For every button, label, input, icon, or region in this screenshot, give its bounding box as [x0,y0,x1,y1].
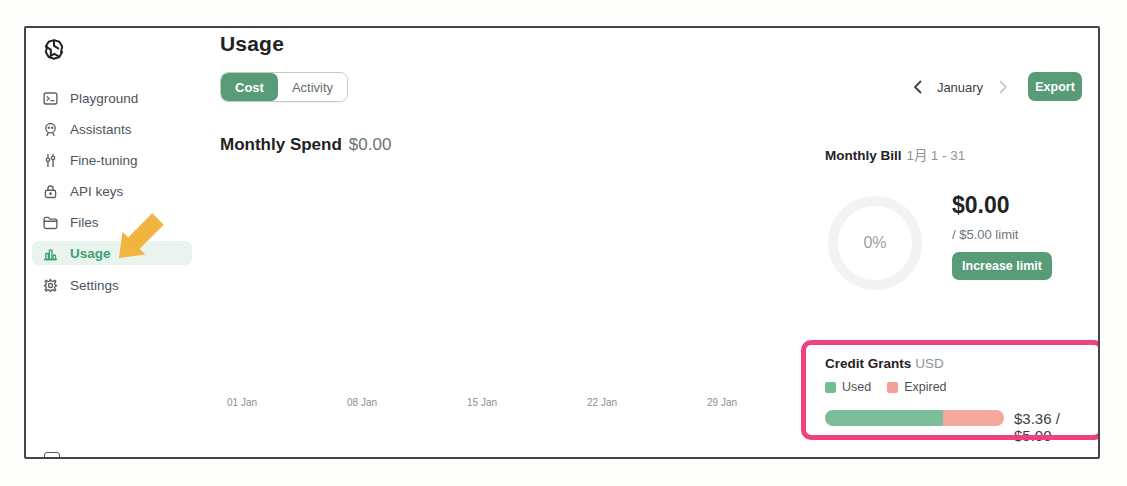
sidebar-item-label: Files [70,215,99,230]
monthly-spend-value: $0.00 [349,135,392,154]
annotation-arrow-icon [114,200,176,264]
sidebar-item-playground[interactable]: Playground [32,86,192,110]
folder-icon [42,214,59,231]
month-navigator: January [910,78,1010,96]
usage-progress-ring: 0% [828,196,922,290]
chevron-left-icon[interactable] [910,78,924,96]
openai-logo-icon[interactable] [40,36,68,64]
x-tick-label: 15 Jan [452,397,512,408]
bill-limit-text: / $5.00 limit [952,227,1018,242]
usage-percent: 0% [863,234,886,252]
x-tick-label: 08 Jan [332,397,392,408]
sidebar-item-label: Fine-tuning [70,153,138,168]
credit-grants-legend: Used Expired [825,380,947,394]
sidebar-item-assistants[interactable]: Assistants [32,117,192,141]
increase-limit-button[interactable]: Increase limit [952,252,1052,280]
billing-period: 1月 1 - 31 [907,148,966,163]
sidebar-item-label: Usage [70,246,111,261]
sidebar-item-label: Assistants [70,122,132,137]
x-tick-label: 01 Jan [212,397,272,408]
monthly-bill-label: Monthly Bill [825,148,902,163]
credit-grants-currency: USD [915,356,944,371]
credit-grants-amount: $3.36 / $5.00 [1014,410,1098,444]
used-swatch-icon [825,382,836,393]
credit-grants-progress-bar [825,410,1004,426]
legend-item-used: Used [825,380,871,394]
sidebar-item-label: Settings [70,278,119,293]
monthly-spend-label: Monthly Spend [220,135,342,154]
sliders-icon [42,152,59,169]
chevron-right-icon[interactable] [996,78,1010,96]
sidebar-item-label: API keys [70,184,123,199]
bar-chart-icon [42,245,59,262]
sidebar-item-settings[interactable]: Settings [32,273,192,297]
terminal-icon [42,90,59,107]
legend-used-label: Used [842,380,871,394]
credit-grants-label: Credit Grants [825,356,911,371]
monthly-bill-title: Monthly Bill1月 1 - 31 [825,144,965,164]
tab-cost[interactable]: Cost [221,73,278,101]
month-label: January [934,80,986,95]
export-button[interactable]: Export [1028,72,1082,101]
bill-amount: $0.00 [952,192,1010,219]
credit-grants-title: Credit GrantsUSD [825,356,944,371]
lock-icon [42,183,59,200]
cutoff-bottom-icon [44,452,60,459]
x-tick-label: 22 Jan [572,397,632,408]
monthly-spend-title: Monthly Spend$0.00 [220,135,391,155]
legend-item-expired: Expired [887,380,946,394]
cost-activity-tab-group: Cost Activity [220,72,348,102]
gear-icon [42,277,59,294]
page-title: Usage [220,32,284,56]
expired-swatch-icon [887,382,898,393]
sidebar-item-fine-tuning[interactable]: Fine-tuning [32,148,192,172]
tab-activity[interactable]: Activity [278,73,347,101]
assistant-robot-icon [42,121,59,138]
legend-expired-label: Expired [904,380,946,394]
sidebar-item-label: Playground [70,91,138,106]
credit-used-fill [825,410,943,426]
platform-window: Playground Assistants Fine-tuning API ke… [24,26,1100,459]
x-tick-label: 29 Jan [692,397,752,408]
